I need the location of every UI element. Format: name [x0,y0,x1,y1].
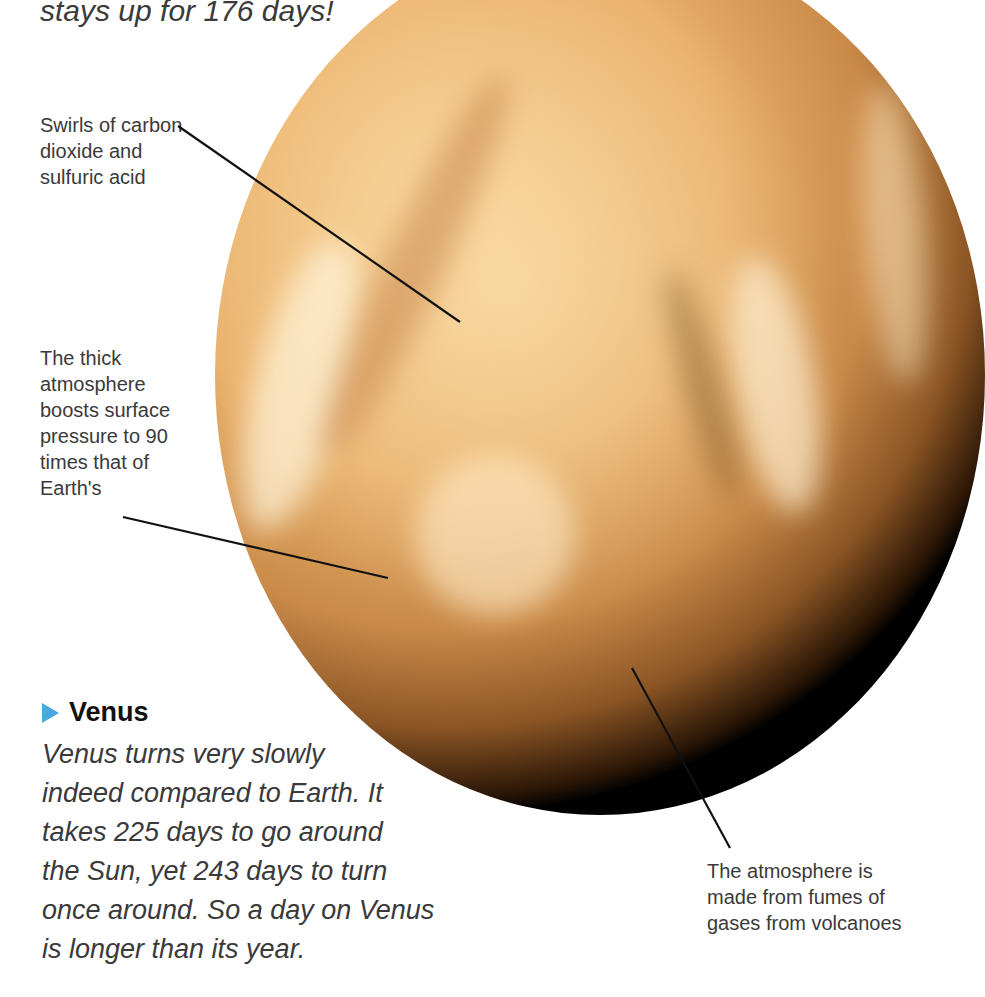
leader-line-swirls [178,126,460,322]
section-heading: Venus [42,697,149,728]
section-body: Venus turns very slowly indeed compared … [42,735,442,969]
leader-line-pressure [123,517,388,578]
leader-line-volcanoes [632,668,730,848]
triangle-bullet-icon [42,703,59,723]
